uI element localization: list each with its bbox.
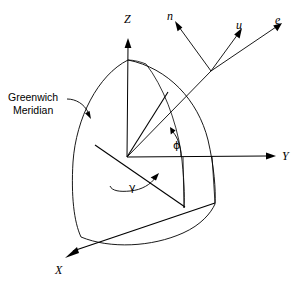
greenwich-leader-line [67, 99, 88, 112]
angle-label-phi: ϕ [173, 140, 180, 151]
y-axis-line [127, 156, 266, 157]
greenwich-meridian-annotation-line2: Meridian [8, 104, 58, 117]
projection-drop-line-inner [183, 157, 184, 208]
geocentric-coordinate-diagram: Z Y X n u e ϕ γ Greenwich Meridian [0, 0, 306, 287]
upper-radius-line [127, 92, 168, 157]
point-meridian-arc [146, 64, 184, 208]
greenwich-leader-arrowhead [85, 111, 91, 119]
angle-label-gamma: γ [129, 182, 136, 193]
u-vector-line [211, 34, 238, 71]
vector-label-n: n [167, 10, 173, 22]
axis-label-y: Y [282, 150, 289, 162]
axis-label-x: X [55, 264, 62, 276]
z-axis-line [127, 46, 128, 157]
equatorial-plane-edge [95, 145, 185, 207]
y-axis-arrowhead [266, 153, 276, 160]
greenwich-meridian-annotation: Greenwich Meridian [8, 91, 58, 117]
axis-label-z: Z [124, 13, 131, 25]
gamma-angle-arrowhead [151, 173, 159, 181]
x-axis-arrowhead [65, 247, 79, 258]
greenwich-meridian-annotation-line1: Greenwich [8, 91, 58, 104]
n-vector-line [179, 27, 211, 71]
e-vector-line [211, 27, 276, 71]
phi-angle-arrowhead [170, 127, 176, 135]
vector-label-e: e [275, 14, 280, 26]
vector-label-u: u [236, 19, 242, 31]
diagram-canvas [0, 0, 306, 287]
z-axis-arrowhead [125, 38, 132, 48]
